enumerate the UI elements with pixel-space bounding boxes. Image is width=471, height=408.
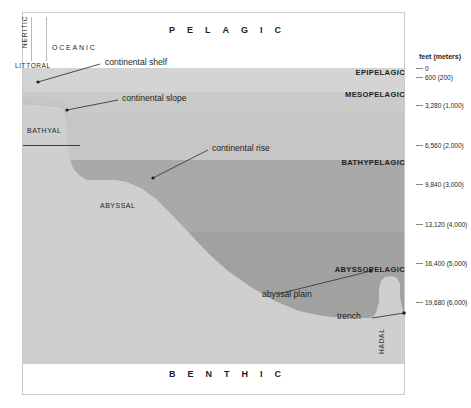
callout-continental-shelf: continental shelf <box>105 57 167 67</box>
depth-tick-mark <box>416 224 423 225</box>
depth-tick-label: 9,840 (3,000) <box>425 181 464 188</box>
depth-tick-mark <box>416 68 423 69</box>
depth-tick-label: 6,560 (2,000) <box>425 142 464 149</box>
depth-tick-mark <box>416 263 423 264</box>
callout-trench: trench <box>337 311 361 321</box>
zone-label-abyssopelagic: ABYSSOPELAGIC <box>285 265 405 274</box>
depth-tick-mark <box>416 105 423 106</box>
zone-label-abyssal: ABYSSAL <box>100 202 135 209</box>
depth-tick-label: 3,280 (1,000) <box>425 102 464 109</box>
zone-label-bathypelagic: BATHYPELAGIC <box>285 158 405 167</box>
depth-tick-label: 600 (200) <box>425 74 453 81</box>
depth-tick-label: 16,400 (5,000) <box>425 260 467 267</box>
oceanic-label: OCEANIC <box>52 44 97 51</box>
depth-tick-mark <box>416 184 423 185</box>
depth-tick-label: 19,680 (6,000) <box>425 299 467 306</box>
depth-tick-mark <box>416 302 423 303</box>
zone-label-mesopelagic: MESOPELAGIC <box>285 90 405 99</box>
ocean-zones-diagram: PELAGIC NERITIC OCEANIC LITTORAL EPIPELA… <box>0 0 471 408</box>
pelagic-title: PELAGIC <box>100 25 350 35</box>
zone-label-bathyal: BATHYAL <box>27 127 61 134</box>
benthic-title: BENTHIC <box>100 369 350 379</box>
callout-continental-slope: continental slope <box>122 93 187 103</box>
callout-abyssal-plain: abyssal plain <box>262 289 312 299</box>
bathyal-divider-line <box>23 145 80 146</box>
depth-tick-mark <box>416 77 423 78</box>
zone-label-hadal: HADAL <box>378 328 385 354</box>
depth-tick-label: 13,120 (4,000) <box>425 221 467 228</box>
depth-tick-mark <box>416 145 423 146</box>
zone-label-epipelagic: EPIPELAGIC <box>285 68 405 77</box>
callout-continental-rise: continental rise <box>212 143 270 153</box>
depth-scale-header: feet (meters) <box>419 53 461 60</box>
depth-tick-label: 0 <box>425 65 429 72</box>
neritic-label: NERITIC <box>21 8 28 48</box>
neritic-bracket <box>31 17 47 61</box>
